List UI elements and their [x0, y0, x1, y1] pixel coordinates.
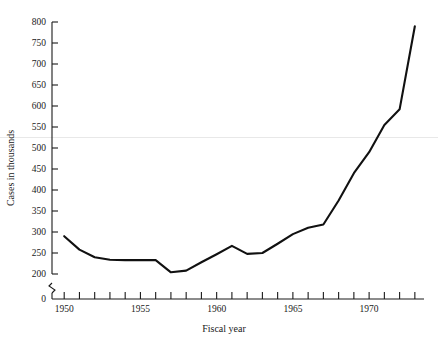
y-tick-label: 450: [32, 164, 47, 174]
y-tick-label: 550: [32, 122, 47, 132]
y-tick-label: 600: [32, 101, 47, 111]
x-tick-label: 1950: [55, 304, 74, 314]
y-tick-label: 750: [32, 38, 47, 48]
y-tick-label: 700: [32, 59, 47, 69]
y-axis-title: Cases in thousands: [5, 130, 16, 206]
x-axis-ticks: [64, 292, 415, 299]
y-tick-label: 350: [32, 206, 47, 216]
y-tick-label: 250: [32, 248, 47, 258]
line-chart: 200250300350400450500550600650700750800 …: [0, 0, 438, 341]
x-axis-tick-labels: 19501955196019651970: [55, 304, 379, 314]
y-axis-ticks: [52, 22, 58, 274]
y-tick-label: 650: [32, 80, 47, 90]
y-tick-label: 300: [32, 227, 47, 237]
chart-canvas: 200250300350400450500550600650700750800 …: [0, 0, 438, 341]
y-tick-label: 200: [32, 269, 47, 279]
y-axis-zero-label: 0: [41, 294, 46, 304]
y-axis-break-icon: [49, 283, 55, 293]
x-tick-label: 1965: [283, 304, 302, 314]
y-tick-label: 500: [32, 143, 47, 153]
y-axis-tick-labels: 200250300350400450500550600650700750800: [32, 17, 47, 279]
y-tick-label: 400: [32, 185, 47, 195]
x-axis-title: Fiscal year: [202, 323, 246, 334]
x-tick-label: 1955: [131, 304, 150, 314]
y-tick-label: 800: [32, 17, 47, 27]
data-series-line: [64, 26, 415, 272]
x-tick-label: 1970: [360, 304, 379, 314]
x-tick-label: 1960: [207, 304, 226, 314]
